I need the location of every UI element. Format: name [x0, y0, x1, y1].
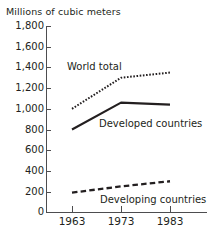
y-axis-label: 600	[25, 145, 44, 155]
y-axis-label: 200	[25, 187, 44, 197]
series-line-developing-countries	[72, 181, 170, 192]
y-axis-tick	[46, 67, 51, 68]
y-axis-label: 1,200	[15, 83, 44, 93]
y-axis-tick	[46, 150, 51, 151]
y-axis-tick	[46, 109, 51, 110]
y-axis-caption: Millions of cubic meters	[6, 6, 121, 17]
series-line-world-total	[72, 73, 170, 109]
y-axis-tick	[46, 26, 51, 27]
y-axis-label: 400	[25, 166, 44, 176]
chart-container: Millions of cubic meters 1,800 1,600 1,4…	[0, 0, 213, 235]
y-axis-tick	[46, 192, 51, 193]
x-axis-tick	[170, 206, 171, 213]
y-axis-label: 1,400	[15, 62, 44, 72]
x-axis-tick	[121, 206, 122, 213]
y-axis-label: 1,600	[15, 42, 44, 52]
x-axis-label: 1963	[59, 215, 86, 227]
y-axis-tick	[46, 47, 51, 48]
y-axis-label: 1,800	[15, 21, 44, 31]
x-axis-line	[46, 212, 207, 213]
series-annotation-developing-countries: Developing countries	[100, 194, 206, 205]
x-axis-tick	[72, 206, 73, 213]
y-axis-tick	[46, 171, 51, 172]
y-axis-tick	[46, 88, 51, 89]
y-axis-line	[46, 26, 47, 213]
y-axis-label: 1,000	[15, 104, 44, 114]
series-annotation-developed-countries: Developed countries	[99, 118, 202, 129]
y-axis-tick	[46, 212, 51, 213]
x-axis-label: 1983	[157, 215, 184, 227]
x-axis-label: 1973	[108, 215, 135, 227]
y-axis-label: 800	[25, 125, 44, 135]
series-annotation-world-total: World total	[67, 61, 122, 72]
y-axis-tick	[46, 130, 51, 131]
y-axis-label: 0	[38, 207, 44, 217]
